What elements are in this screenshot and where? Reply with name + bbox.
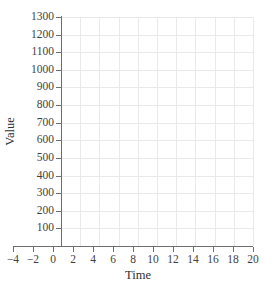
x-axis-tick [173,247,174,252]
y-axis-tick-label-wrap: 1100 [18,46,54,58]
x-axis-tick [33,247,34,252]
y-axis-title: Value [3,104,18,160]
y-axis-tick-label-wrap: 1200 [18,29,54,41]
y-axis-tick [56,35,61,36]
y-axis-tick-label-wrap: 500 [18,152,54,164]
gridline-horizontal [61,228,253,229]
y-axis-tick-label-wrap: 1300 [18,11,54,23]
gridline-horizontal [61,176,253,177]
y-axis-tick-label-wrap: 1000 [18,64,54,76]
y-axis-tick [56,17,61,18]
x-axis-tick [153,247,154,252]
gridline-horizontal [61,105,253,106]
y-axis-tick-label-wrap: 600 [18,134,54,146]
x-axis-tick [213,247,214,252]
y-axis-tick-label: 600 [24,134,54,146]
y-axis-tick-label-wrap: 300 [18,187,54,199]
y-axis-tick-label-wrap: 900 [18,81,54,93]
y-axis-tick [56,52,61,53]
gridline-horizontal [61,70,253,71]
y-axis-tick-label-wrap: 700 [18,117,54,129]
x-axis-tick [73,247,74,252]
x-axis-tick [13,247,14,252]
y-axis-tick-label: 800 [24,99,54,111]
y-axis-tick-label: 500 [24,152,54,164]
y-axis-spine [61,16,62,247]
gridline-horizontal [61,52,253,53]
y-axis-tick-label-wrap: 400 [18,170,54,182]
y-axis-tick-label: 900 [24,81,54,93]
y-axis-tick [56,193,61,194]
y-axis-tick-label: 1200 [24,29,54,41]
y-axis-tick [56,70,61,71]
gridline-horizontal [61,158,253,159]
plot-area [61,17,253,246]
gridline-vertical [253,17,254,246]
y-axis-tick-label-wrap: 200 [18,205,54,217]
x-axis-title: Time [0,268,276,283]
x-axis-tick [93,247,94,252]
x-axis-tick [113,247,114,252]
gridline-horizontal [61,17,253,18]
y-axis-tick-label: 400 [24,170,54,182]
y-axis-tick [56,87,61,88]
gridline-horizontal [61,193,253,194]
y-axis-tick [56,140,61,141]
y-axis-tick [56,176,61,177]
x-axis-tick [133,247,134,252]
y-axis-tick-label: 300 [24,187,54,199]
chart-figure: Value Time 13001200110010009008007006005… [0,0,276,292]
y-axis-tick-label: 1300 [24,11,54,23]
y-axis-tick-label-wrap: 800 [18,99,54,111]
y-axis-tick-label: 700 [24,117,54,129]
gridline-horizontal [61,211,253,212]
x-axis-tick-label: 20 [241,253,265,265]
y-axis-tick [56,105,61,106]
y-axis-tick-label-wrap: 100 [18,222,54,234]
x-axis-tick [193,247,194,252]
y-axis-tick-label: 100 [24,222,54,234]
y-axis-tick-label: 200 [24,205,54,217]
x-axis-tick [53,247,54,252]
y-axis-tick-label: 1000 [24,64,54,76]
gridline-horizontal [61,123,253,124]
x-axis-tick [233,247,234,252]
y-axis-tick [56,211,61,212]
gridline-horizontal [61,35,253,36]
y-axis-tick [56,158,61,159]
y-axis-tick-label: 1100 [24,46,54,58]
x-axis-tick [253,247,254,252]
y-axis-tick [56,123,61,124]
gridline-horizontal [61,87,253,88]
gridline-horizontal [61,140,253,141]
y-axis-tick [56,228,61,229]
